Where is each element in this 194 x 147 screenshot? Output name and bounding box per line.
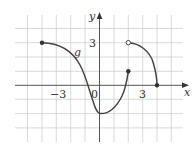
x-tick-3: 3 xyxy=(139,88,146,101)
x-axis-label: x xyxy=(184,86,191,99)
graph-of-g: x y −3 0 3 3 g xyxy=(0,0,194,147)
closed-point-2-1 xyxy=(126,69,130,73)
closed-point-start xyxy=(40,41,44,45)
axes xyxy=(15,16,186,142)
closed-point-4-0 xyxy=(155,83,159,87)
open-point-2-3 xyxy=(126,41,130,45)
x-tick-neg3: −3 xyxy=(50,88,66,101)
y-axis-arrow-icon xyxy=(97,12,103,19)
y-tick-3: 3 xyxy=(89,37,96,50)
y-axis-label: y xyxy=(88,10,96,23)
